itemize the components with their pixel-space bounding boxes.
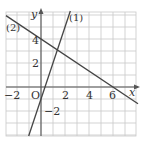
origin-label: O [31, 89, 40, 102]
coordinate-plane-diagram: y x O −2 2 4 6 4 2 −2 (1) (2) [0, 0, 149, 145]
x-tick-label-2: 2 [62, 89, 69, 102]
y-axis-arrow-icon [39, 8, 44, 14]
line-2-label: (2) [6, 22, 20, 33]
grid [6, 12, 136, 136]
grid-border [6, 12, 136, 136]
y-tick-label-4: 4 [32, 34, 39, 47]
x-axis-label: x [129, 86, 136, 99]
x-tick-label-neg2: −2 [4, 89, 20, 102]
x-tick-label-4: 4 [86, 89, 93, 102]
y-tick-label-neg2: −2 [44, 105, 60, 118]
y-tick-label-2: 2 [32, 57, 39, 70]
y-axis-label: y [30, 8, 38, 21]
line-1-label: (1) [69, 12, 83, 23]
line-2 [6, 16, 138, 104]
x-tick-label-6: 6 [109, 89, 116, 102]
plotted-lines [6, 11, 138, 136]
